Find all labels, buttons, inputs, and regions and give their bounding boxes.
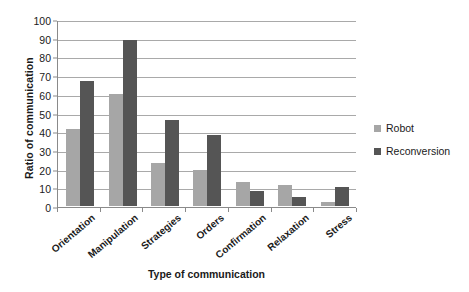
- legend-swatch: [374, 125, 381, 132]
- y-axis-tick-label: 50: [39, 109, 51, 121]
- bar-group: [186, 21, 228, 206]
- legend: RobotReconversion: [374, 122, 469, 168]
- bar-group: [314, 21, 356, 206]
- y-axis-tick-label: 30: [39, 146, 51, 158]
- bar-group: [101, 21, 143, 206]
- y-axis-tick-label: 10: [39, 183, 51, 195]
- y-axis-tick-label: 70: [39, 71, 51, 83]
- y-axis-tick-label: 60: [39, 90, 51, 102]
- legend-item: Reconversion: [374, 145, 469, 157]
- y-axis-tick-label: 40: [39, 127, 51, 139]
- x-axis-labels: OrientationManipulationStrategiesOrdersC…: [57, 212, 356, 258]
- legend-label: Robot: [386, 122, 414, 134]
- bar-group: [229, 21, 271, 206]
- legend-swatch: [374, 148, 381, 155]
- x-axis-title: Type of communication: [57, 268, 356, 280]
- legend-item: Robot: [374, 122, 469, 134]
- bar: [66, 129, 80, 206]
- y-axis-tick-label: 0: [45, 202, 51, 214]
- y-axis-tick-label: 90: [39, 34, 51, 46]
- y-axis-tick-label: 80: [39, 52, 51, 64]
- bar-group: [59, 21, 101, 206]
- bar-chart: Ratio of communication 10090807060504030…: [0, 0, 469, 292]
- legend-label: Reconversion: [386, 145, 450, 157]
- y-axis-tick-label: 20: [39, 165, 51, 177]
- y-axis-tick-label: 100: [33, 15, 51, 27]
- bar: [80, 81, 94, 206]
- bar: [250, 191, 264, 206]
- y-axis-ticks: 1009080706050403020100: [0, 21, 57, 208]
